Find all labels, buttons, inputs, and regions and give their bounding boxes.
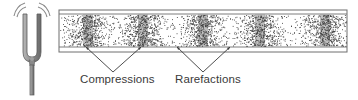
air-column-tube xyxy=(59,10,347,52)
compressions-label: Compressions xyxy=(80,73,155,85)
rarefactions-label: Rarefactions xyxy=(175,73,241,85)
sound-wave-diagram xyxy=(0,0,358,100)
tuning-fork-icon xyxy=(14,3,50,95)
